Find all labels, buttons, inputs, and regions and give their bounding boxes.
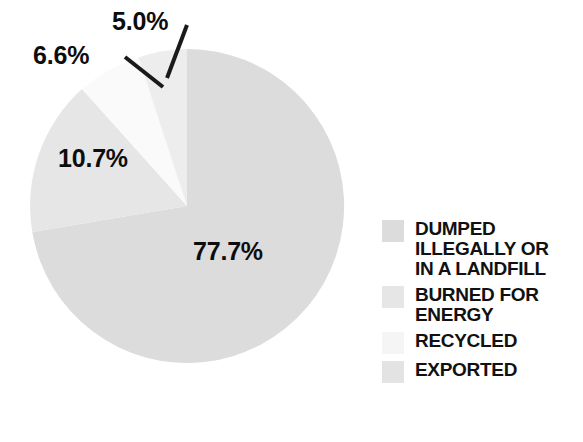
legend-label-recycled: RECYCLED <box>415 331 517 351</box>
legend-label-dumped: DUMPEDILLEGALLY ORIN A LANDFILL <box>415 219 549 279</box>
legend-label-burned-line1: BURNED FOR <box>415 284 539 305</box>
legend-label-burned: BURNED FORENERGY <box>415 285 539 325</box>
legend-item-burned[interactable]: BURNED FORENERGY <box>382 285 582 325</box>
chart-legend: DUMPEDILLEGALLY ORIN A LANDFILL BURNED F… <box>382 219 582 389</box>
legend-label-exported: EXPORTED <box>415 360 517 380</box>
legend-label-dumped-line2: ILLEGALLY OR <box>415 238 549 259</box>
pie-value-label-recycled: 6.6% <box>33 41 89 70</box>
legend-label-dumped-line3: IN A LANDFILL <box>415 258 546 279</box>
legend-item-dumped[interactable]: DUMPEDILLEGALLY ORIN A LANDFILL <box>382 219 582 279</box>
legend-item-exported[interactable]: EXPORTED <box>382 360 582 383</box>
pie-value-label-burned: 10.7% <box>58 144 128 173</box>
legend-label-burned-line2: ENERGY <box>415 304 493 325</box>
legend-label-dumped-line1: DUMPED <box>415 218 496 239</box>
legend-swatch-burned <box>382 286 404 308</box>
legend-item-recycled[interactable]: RECYCLED <box>382 331 582 354</box>
pie-chart-figure: 77.7% 10.7% 6.6% 5.0% DUMPEDILLEGALLY OR… <box>0 0 583 442</box>
pie-value-label-dumped: 77.7% <box>193 237 263 266</box>
legend-swatch-dumped <box>382 220 404 242</box>
legend-swatch-recycled <box>382 332 404 354</box>
legend-swatch-exported <box>382 361 404 383</box>
pie-value-label-exported: 5.0% <box>112 7 168 36</box>
